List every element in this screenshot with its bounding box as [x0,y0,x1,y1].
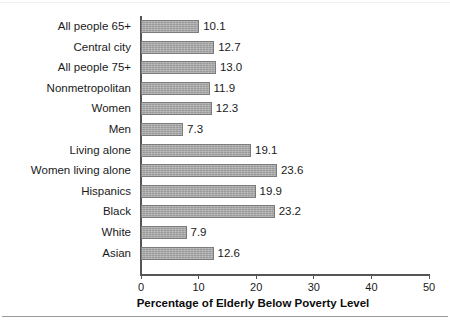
bar-row: Women12.3 [0,102,450,123]
bar-row: Women living alone23.6 [0,164,450,185]
x-axis-tick [256,274,257,279]
x-axis-tick-label: 10 [179,281,219,294]
x-axis-tick-label: 50 [409,281,449,294]
bar [141,144,251,157]
category-label: All people 75+ [0,61,131,74]
bar-row: Hispanics19.9 [0,185,450,206]
x-axis-tick [198,274,199,279]
bar-value-label: 19.9 [260,185,282,198]
bar [141,205,275,218]
page-bottom-rule [2,316,448,317]
category-label: All people 65+ [0,20,131,33]
bar-row: Living alone19.1 [0,144,450,165]
bar-value-label: 13.0 [220,61,242,74]
bar-value-label: 12.3 [216,102,238,115]
x-axis-tick-label: 0 [121,281,161,294]
bar [141,185,256,198]
bar-row: All people 65+10.1 [0,20,450,41]
x-axis-tick [371,274,372,279]
category-label: Women [0,102,131,115]
plot-area: All people 65+10.1Central city12.7All pe… [0,0,450,325]
bar [141,20,199,33]
bar-value-label: 7.9 [191,226,207,239]
bar [141,164,277,177]
x-axis-line [140,274,430,276]
x-axis-tick [313,274,314,279]
bar [141,41,214,54]
category-label: Asian [0,247,131,260]
bar-row: Nonmetropolitan11.9 [0,82,450,103]
bar-value-label: 11.9 [214,82,236,95]
category-label: Men [0,123,131,136]
bar [141,226,187,239]
category-label: Central city [0,41,131,54]
x-axis-tick-label: 40 [351,281,391,294]
category-label: Women living alone [0,164,131,177]
bar [141,123,183,136]
bar-value-label: 19.1 [255,144,277,157]
x-axis-title: Percentage of Elderly Below Poverty Leve… [0,296,450,310]
category-label: Nonmetropolitan [0,82,131,95]
bar-row: Men7.3 [0,123,450,144]
bar-row: White7.9 [0,226,450,247]
bar [141,61,216,74]
poverty-bar-chart: All people 65+10.1Central city12.7All pe… [0,0,450,325]
bar-row: All people 75+13.0 [0,61,450,82]
bar-value-label: 12.7 [218,41,240,54]
x-axis-tick [429,274,430,279]
bar-row: Black23.2 [0,205,450,226]
category-label: Living alone [0,144,131,157]
category-label: Hispanics [0,185,131,198]
category-label: Black [0,205,131,218]
bar-row: Asian12.6 [0,247,450,268]
bar-value-label: 23.6 [281,164,303,177]
bar [141,82,210,95]
bar-value-label: 23.2 [279,205,301,218]
x-axis-tick-label: 20 [236,281,276,294]
bar-value-label: 10.1 [203,20,225,33]
x-axis-tick [141,274,142,279]
bar-value-label: 12.6 [218,247,240,260]
x-axis-tick-label: 30 [294,281,334,294]
bar-row: Central city12.7 [0,41,450,62]
bar [141,247,214,260]
category-label: White [0,226,131,239]
bar [141,102,212,115]
bar-value-label: 7.3 [187,123,203,136]
